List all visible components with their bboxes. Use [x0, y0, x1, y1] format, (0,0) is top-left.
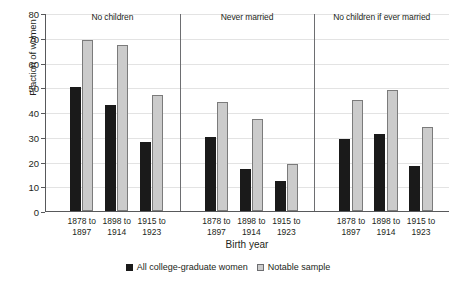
bar — [217, 102, 228, 211]
legend-swatch-dark-icon — [126, 264, 133, 271]
bar — [387, 90, 398, 211]
legend-label: All college-graduate women — [137, 262, 248, 272]
x-tick-label-line: 1897 — [202, 227, 230, 238]
x-tick-label: 1878 to1897 — [68, 216, 96, 238]
x-tick-label-line: 1897 — [68, 227, 96, 238]
x-tick-label-line: 1923 — [407, 227, 435, 238]
y-tick-label: 50 — [28, 83, 39, 94]
bar-chart: Fraction of women 01020304050607080 No c… — [0, 0, 456, 281]
bar — [117, 45, 128, 211]
x-tick-label: 1898 to1914 — [372, 216, 400, 238]
x-tick-label-line: 1915 to — [272, 216, 300, 227]
y-tick-label: 0 — [34, 207, 39, 218]
x-tick-label-line: 1914 — [372, 227, 400, 238]
x-tick-label: 1915 to1923 — [137, 216, 165, 238]
bar — [409, 166, 420, 211]
panel-title: Never married — [221, 12, 274, 22]
y-axis-line — [45, 14, 46, 212]
legend-entry: All college-graduate women — [126, 262, 248, 272]
y-tick-label: 80 — [28, 9, 39, 20]
bar — [152, 95, 163, 211]
x-tick-label: 1898 to1914 — [103, 216, 131, 238]
bar — [422, 127, 433, 211]
legend-label: Notable sample — [268, 262, 331, 272]
x-tick-label-line: 1923 — [137, 227, 165, 238]
x-tick-label-line: 1878 to — [337, 216, 365, 227]
x-tick-label-line: 1923 — [272, 227, 300, 238]
panel-divider — [180, 14, 181, 212]
y-tick-mark — [41, 212, 45, 213]
y-tick-label: 40 — [28, 108, 39, 119]
x-tick-label: 1915 to1923 — [407, 216, 435, 238]
y-tick-label: 30 — [28, 132, 39, 143]
x-tick-label-line: 1878 to — [202, 216, 230, 227]
bar — [82, 40, 93, 211]
x-tick-label: 1878 to1897 — [202, 216, 230, 238]
bar — [205, 137, 216, 211]
bar — [240, 169, 251, 211]
panel-title: No children if ever married — [333, 12, 430, 22]
panel-divider — [314, 14, 315, 212]
x-tick-label-line: 1898 to — [103, 216, 131, 227]
x-axis-line — [45, 211, 449, 212]
legend-swatch-light-icon — [257, 264, 264, 271]
plot-area: 01020304050607080 No childrenNever marri… — [45, 14, 449, 212]
x-tick-label-line: 1897 — [337, 227, 365, 238]
x-tick-label: 1898 to1914 — [237, 216, 265, 238]
x-tick-label-line: 1914 — [237, 227, 265, 238]
x-tick-label: 1878 to1897 — [337, 216, 365, 238]
x-tick-label-line: 1915 to — [137, 216, 165, 227]
y-tick-label: 60 — [28, 58, 39, 69]
y-tick-label: 20 — [28, 157, 39, 168]
x-tick-label-line: 1898 to — [372, 216, 400, 227]
bar — [287, 164, 298, 211]
x-tick-label-line: 1914 — [103, 227, 131, 238]
x-tick-label: 1915 to1923 — [272, 216, 300, 238]
bar — [105, 105, 116, 211]
gridline — [45, 39, 449, 40]
y-tick-label: 10 — [28, 182, 39, 193]
legend-entry: Notable sample — [257, 262, 331, 272]
chart-legend: All college-graduate womenNotable sample — [0, 262, 456, 272]
bar — [252, 119, 263, 211]
bar — [374, 134, 385, 211]
x-axis-title: Birth year — [45, 239, 449, 250]
x-tick-label-line: 1878 to — [68, 216, 96, 227]
bar — [70, 87, 81, 211]
y-tick-label: 70 — [28, 33, 39, 44]
bar — [339, 139, 350, 211]
bar — [140, 142, 151, 211]
bar — [275, 181, 286, 211]
gridline — [45, 64, 449, 65]
panel-title: No children — [91, 12, 133, 22]
x-tick-label-line: 1898 to — [237, 216, 265, 227]
bar — [352, 100, 363, 211]
x-tick-label-line: 1915 to — [407, 216, 435, 227]
